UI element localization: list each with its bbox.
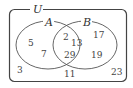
- venn-diagram: U A B 5 7 2 13 29 17 19 3 11 23: [0, 0, 133, 88]
- region-outside-value: 23: [111, 67, 123, 77]
- region-a-only-value: 7: [41, 49, 47, 59]
- region-a-and-b-value: 29: [64, 50, 76, 60]
- set-b-label: B: [82, 16, 91, 29]
- region-a-and-b-value: 2: [63, 32, 69, 42]
- region-outside-value: 3: [17, 65, 23, 75]
- region-outside-value: 11: [64, 69, 75, 79]
- region-a-only-value: 5: [28, 38, 34, 48]
- universe-label: U: [33, 3, 43, 16]
- region-b-only-value: 17: [93, 30, 105, 40]
- region-a-and-b-value: 13: [71, 38, 83, 48]
- region-b-only-value: 19: [91, 50, 103, 60]
- set-a-label: A: [44, 16, 53, 29]
